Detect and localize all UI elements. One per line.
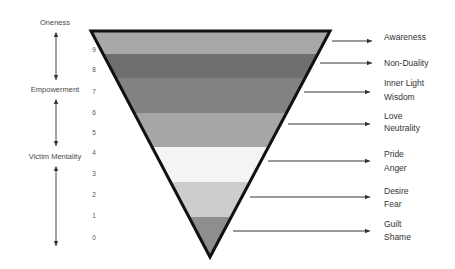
band-inner-light-wisdom	[85, 78, 335, 113]
label-inner-light: Inner Light	[384, 78, 425, 88]
label-neutrality: Neutrality	[384, 123, 421, 133]
right-labels: Awareness Non-Duality Inner Light Wisdom…	[384, 32, 429, 242]
band-non-duality	[85, 54, 335, 78]
band-pride-anger	[85, 147, 335, 182]
left-axis: Oneness Empowerment Victim Mentality	[29, 18, 82, 246]
label-non-duality: Non-Duality	[384, 58, 429, 68]
label-fear: Fear	[384, 199, 402, 209]
label-awareness: Awareness	[384, 32, 426, 42]
level-3: 3	[92, 170, 96, 177]
level-1: 1	[92, 212, 96, 219]
band-desire-fear	[85, 182, 335, 217]
band-awareness	[85, 31, 335, 54]
level-0: 0	[92, 234, 96, 241]
level-7: 7	[92, 88, 96, 95]
level-5: 5	[92, 129, 96, 136]
label-shame: Shame	[384, 232, 411, 242]
level-6: 6	[92, 109, 96, 116]
level-4: 4	[92, 149, 96, 156]
label-love: Love	[384, 111, 403, 121]
band-love-neutrality	[85, 113, 335, 147]
label-wisdom: Wisdom	[384, 92, 415, 102]
level-2: 2	[92, 191, 96, 198]
level-8: 8	[92, 66, 96, 73]
label-guilt: Guilt	[384, 219, 402, 229]
consciousness-pyramid-diagram: Oneness Empowerment Victim Mentality 9 8…	[0, 0, 455, 269]
triangle-bands	[85, 31, 335, 259]
oneness-label: Oneness	[40, 18, 70, 27]
label-desire: Desire	[384, 186, 409, 196]
label-anger: Anger	[384, 163, 407, 173]
level-9: 9	[92, 46, 96, 53]
victim-mentality-label: Victim Mentality	[29, 152, 82, 161]
level-scale: 9 8 7 6 5 4 3 2 1 0	[92, 46, 96, 241]
empowerment-label: Empowerment	[31, 85, 80, 94]
label-pride: Pride	[384, 149, 404, 159]
band-guilt-shame	[85, 217, 335, 259]
